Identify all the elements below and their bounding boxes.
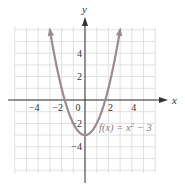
x-tick-label: 4 xyxy=(131,102,136,113)
y-tick-label: 2 xyxy=(77,71,82,82)
curve-arrow-icon xyxy=(116,28,122,36)
y-axis-label: y xyxy=(81,3,87,15)
x-tick-label: −2 xyxy=(52,102,63,113)
function-label-rhs: − 3 xyxy=(134,122,152,133)
x-axis-label: x xyxy=(171,94,177,106)
x-axis-arrow-icon xyxy=(159,97,168,103)
function-label-lhs: f(x) = x xyxy=(99,122,131,134)
curve-arrow-icon xyxy=(48,28,54,36)
function-graph: x y −4−202442−2−4 f(x) = x2 − 3 xyxy=(0,0,185,196)
y-tick-label: 4 xyxy=(77,48,82,59)
x-tick-label: −4 xyxy=(29,102,40,113)
x-tick-label: 0 xyxy=(76,102,81,113)
y-axis-arrow-icon xyxy=(82,17,88,26)
x-tick-label: 2 xyxy=(108,102,113,113)
y-tick-label: −4 xyxy=(71,141,82,152)
function-label: f(x) = x2 − 3 xyxy=(99,121,152,134)
